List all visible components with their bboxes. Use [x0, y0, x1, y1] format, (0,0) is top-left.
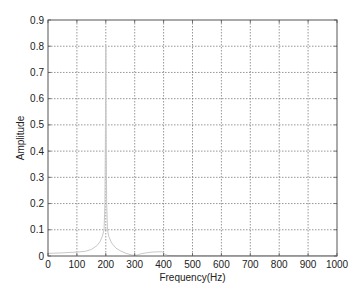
x-tick-label: 600 [213, 259, 230, 270]
y-tick-label: 0.7 [30, 67, 44, 78]
amplitude-frequency-chart: 01002003004005006007008009001000 00.10.2… [0, 0, 364, 292]
x-tick-label: 1000 [326, 259, 349, 270]
y-tick-label: 0.6 [30, 93, 44, 104]
y-tick-label: 0 [38, 251, 44, 262]
y-tick-label: 0.4 [30, 146, 44, 157]
x-tick-label: 100 [69, 259, 86, 270]
grid-lines [48, 20, 337, 256]
y-tick-label: 0.9 [30, 15, 44, 26]
y-tick-label: 0.3 [30, 172, 44, 183]
x-tick-label: 900 [300, 259, 317, 270]
x-tick-label: 800 [271, 259, 288, 270]
y-tick-label: 0.8 [30, 41, 44, 52]
x-tick-label: 0 [45, 259, 51, 270]
y-axis-label: Amplitude [15, 115, 26, 160]
x-tick-label: 400 [155, 259, 172, 270]
x-tick-label: 500 [184, 259, 201, 270]
x-tick-label: 200 [97, 259, 114, 270]
y-tick-label: 0.5 [30, 119, 44, 130]
x-axis-label: Frequency(Hz) [159, 272, 225, 283]
x-axis-ticks: 01002003004005006007008009001000 [45, 20, 348, 270]
x-tick-label: 700 [242, 259, 259, 270]
x-tick-label: 300 [126, 259, 143, 270]
y-axis-ticks: 00.10.20.30.40.50.60.70.80.9 [30, 15, 337, 262]
y-tick-label: 0.1 [30, 224, 44, 235]
y-tick-label: 0.2 [30, 198, 44, 209]
